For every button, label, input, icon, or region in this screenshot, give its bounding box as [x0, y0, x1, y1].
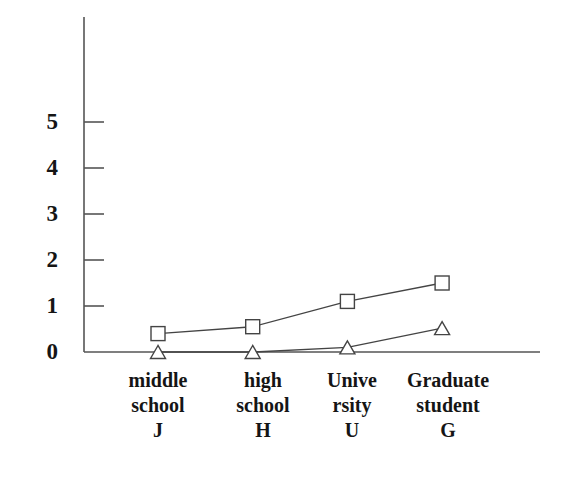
y-tick-label-1: 1 — [22, 294, 58, 317]
y-tick-label-2: 2 — [22, 248, 58, 271]
y-tick-label-4: 4 — [22, 156, 58, 179]
line-chart: 5 4 3 2 1 0 middle school J high school … — [0, 0, 567, 493]
square-point-2 — [340, 294, 354, 308]
x-category-label-3-line-2: G — [386, 418, 510, 443]
y-tick-label-0: 0 — [22, 340, 58, 363]
triangle-point-3 — [435, 322, 450, 335]
y-tick-label-5: 5 — [22, 110, 58, 133]
series-triangle-markers — [151, 322, 450, 359]
x-category-label-3: Graduate student G — [386, 368, 510, 443]
x-category-label-0-line-1: school — [98, 393, 218, 418]
x-category-label-0-line-0: middle — [98, 368, 218, 393]
square-point-0 — [151, 327, 165, 341]
y-tick-label-3: 3 — [22, 202, 58, 225]
x-category-label-3-line-1: student — [386, 393, 510, 418]
x-category-label-0: middle school J — [98, 368, 218, 443]
square-point-3 — [435, 276, 449, 290]
x-category-label-0-line-2: J — [98, 418, 218, 443]
series-triangle-line — [158, 328, 442, 352]
x-category-label-3-line-0: Graduate — [386, 368, 510, 393]
square-point-1 — [246, 320, 260, 334]
y-axis-ticks — [84, 122, 104, 306]
series-square-line — [158, 283, 442, 334]
